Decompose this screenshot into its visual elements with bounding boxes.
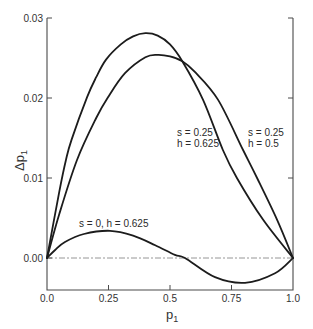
x-tick-labels: 0.0 0.25 0.5 0.75 1.0	[40, 293, 300, 304]
annotation-s0-h0625: s = 0, h = 0.625	[79, 218, 149, 229]
x-axis-title: p1	[166, 307, 178, 324]
chart: 0.03 0.02 0.01 0.00 0.0 0.25 0.5 0.75 1.…	[0, 0, 313, 329]
y-axis-ticks-left	[47, 18, 52, 258]
x-axis-ticks	[109, 285, 232, 290]
y-tick-label: 0.02	[24, 93, 44, 104]
x-tick-label: 0.5	[163, 293, 177, 304]
y-axis-title: Δp1	[12, 150, 29, 171]
annotation-s025-h0625: s = 0.25 h = 0.625	[177, 127, 219, 149]
svg-text:s = 0.25: s = 0.25	[248, 127, 284, 138]
svg-text:s = 0.25: s = 0.25	[177, 127, 213, 138]
y-tick-label: 0.03	[24, 13, 44, 24]
curve-s0-h0625	[47, 231, 293, 283]
y-axis-ticks-right	[288, 18, 293, 178]
svg-text:h = 0.5: h = 0.5	[248, 138, 279, 149]
x-tick-label: 1.0	[286, 293, 300, 304]
annotation-s025-h05: s = 0.25 h = 0.5	[248, 127, 284, 149]
svg-text:h = 0.625: h = 0.625	[177, 138, 219, 149]
y-tick-label: 0.00	[24, 253, 44, 264]
y-tick-labels: 0.03 0.02 0.01 0.00	[24, 13, 44, 264]
svg-text:s = 0, h = 0.625: s = 0, h = 0.625	[79, 218, 149, 229]
x-tick-label: 0.75	[222, 293, 242, 304]
x-tick-label: 0.25	[99, 293, 119, 304]
plot-frame	[47, 18, 293, 290]
y-tick-label: 0.01	[24, 173, 44, 184]
x-tick-label: 0.0	[40, 293, 54, 304]
